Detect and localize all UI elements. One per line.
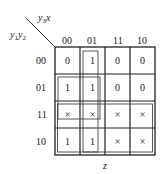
row-header-2: 11	[37, 110, 47, 120]
cell-r0-c0: 0	[55, 47, 80, 74]
cell-r2-c2: ×	[105, 101, 130, 128]
cell-r3-c1: 1	[80, 128, 105, 155]
row-var-label: y1y2	[10, 30, 26, 41]
row-header-1: 01	[36, 83, 46, 93]
cell-r2-c0: ×	[55, 101, 80, 128]
col-header-3: 10	[137, 36, 147, 46]
col-var-label: y3x	[38, 13, 50, 24]
bottom-label: z	[103, 161, 107, 171]
row-header-3: 10	[36, 137, 46, 147]
cell-r1-c3: 0	[130, 74, 155, 101]
col-header-1: 01	[87, 36, 97, 46]
cell-r3-c0: 1	[55, 128, 80, 155]
cell-r1-c0: 1	[55, 74, 80, 101]
cell-r2-c1: ×	[80, 101, 105, 128]
col-header-0: 00	[62, 36, 72, 46]
cell-r3-c3: ×	[130, 128, 155, 155]
cell-r1-c1: 1	[80, 74, 105, 101]
col-header-2: 11	[113, 36, 123, 46]
cell-r1-c2: 0	[105, 74, 130, 101]
cell-r0-c1: 1	[80, 47, 105, 74]
cell-r3-c2: ×	[105, 128, 130, 155]
cell-r2-c3: ×	[130, 101, 155, 128]
cell-r0-c2: 0	[105, 47, 130, 74]
cell-r0-c3: 0	[130, 47, 155, 74]
row-header-0: 00	[36, 56, 46, 66]
